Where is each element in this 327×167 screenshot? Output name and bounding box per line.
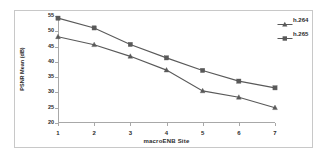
data-point [237, 79, 241, 83]
x-tick-label: 1 [56, 130, 59, 136]
plot-area: 2025303540455055 1234567 [58, 16, 275, 123]
legend-label: h.265 [293, 31, 308, 37]
x-tick-mark [275, 123, 276, 126]
y-tick-label: 30 [48, 90, 54, 96]
y-tick-label: 50 [48, 29, 54, 35]
y-tick-label: 25 [48, 105, 54, 111]
x-tick-mark [94, 123, 95, 126]
y-tick-label: 55 [48, 13, 54, 19]
y-axis-title: PSNR Mean (dB) [19, 47, 25, 90]
x-tick-label: 3 [129, 130, 132, 136]
series-h.265 [56, 16, 277, 90]
x-tick-mark [167, 123, 168, 126]
square-marker-icon [277, 29, 293, 38]
series-h.264 [56, 34, 278, 109]
x-tick-mark [130, 123, 131, 126]
x-tick-mark [203, 123, 204, 126]
x-axis-title: macroENB Site [58, 138, 275, 144]
legend-label: h.264 [293, 17, 308, 23]
y-tick-label: 40 [48, 59, 54, 65]
x-tick-label: 4 [165, 130, 168, 136]
x-tick-label: 5 [201, 130, 204, 136]
legend-item-h.265: h.265 [277, 28, 323, 39]
y-tick-label: 45 [48, 44, 54, 50]
legend-item-h.264: h.264 [277, 14, 323, 25]
series-line [58, 37, 275, 108]
data-point [164, 56, 168, 60]
series-line [58, 18, 275, 88]
x-tick-mark [58, 123, 59, 126]
chart-legend: h.264h.265 [277, 14, 323, 42]
x-tick-mark [239, 123, 240, 126]
chart-figure: 2025303540455055 1234567 macroENB Site P… [0, 0, 327, 167]
data-point [273, 86, 277, 90]
y-tick-label: 35 [48, 74, 54, 80]
data-point [92, 26, 96, 30]
y-tick-label: 20 [48, 120, 54, 126]
x-tick-label: 6 [237, 130, 240, 136]
triangle-marker-icon [277, 15, 293, 24]
x-tick-label: 2 [92, 130, 95, 136]
x-tick-label: 7 [273, 130, 276, 136]
data-point [56, 16, 60, 20]
data-point [201, 68, 205, 72]
series-layer [58, 16, 275, 123]
data-point [128, 42, 132, 46]
